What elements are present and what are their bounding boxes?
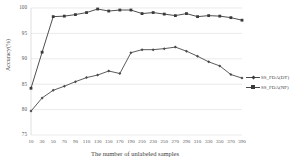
y-tick-label: 100 [11,5,27,10]
legend-label-ss-fda-nf: SS_FDA(NF) [261,85,289,90]
data-point-marker [152,48,155,51]
x-axis-title: The number of unlabeled samples [30,150,240,157]
data-point-marker [141,12,144,15]
data-point-marker [196,55,199,58]
x-tick-label: 390 [235,139,249,144]
data-point-marker [96,8,99,11]
y-tick-label: 95 [11,31,27,36]
data-point-marker [185,50,188,53]
data-point-marker [163,47,166,50]
accuracy-line-chart: Accuracy(%) 1009590858075 10305070901101… [0,0,302,164]
data-point-marker [107,69,110,72]
series-line-ss-fda-nf [31,9,242,88]
data-point-marker [229,16,232,19]
data-point-marker [141,48,144,51]
data-point-marker [185,12,188,15]
legend-item-ss-fda-dt[interactable]: SS_FDA(DT) [246,72,302,82]
chart-legend: SS_FDA(DT) SS_FDA(NF) [246,72,302,92]
y-tick-label: 75 [11,132,27,137]
data-point-marker [63,85,66,88]
y-tick-label: 90 [11,56,27,61]
data-point-marker [85,76,88,79]
data-point-marker [74,80,77,83]
data-point-marker [241,19,244,22]
data-point-marker [96,74,99,77]
legend-item-ss-fda-nf[interactable]: SS_FDA(NF) [246,82,302,92]
data-point-marker [207,60,210,63]
legend-label-ss-fda-dt: SS_FDA(DT) [261,75,289,80]
data-point-marker [130,9,133,12]
data-point-marker [74,13,77,16]
y-tick-label: 80 [11,107,27,112]
legend-marker-diamond-icon [246,73,260,81]
data-point-marker [174,46,177,49]
data-point-marker [163,13,166,16]
data-point-marker [196,15,199,18]
data-point-marker [107,10,110,13]
data-point-marker [52,15,55,18]
data-point-marker [207,14,210,17]
data-point-marker [152,11,155,14]
data-point-marker [174,14,177,17]
data-point-marker [241,77,244,80]
y-tick-label: 85 [11,82,27,87]
legend-marker-square-icon [246,83,260,91]
data-point-marker [218,15,221,18]
data-point-marker [118,9,121,12]
data-point-marker [85,11,88,14]
series-line-ss-fda-dt [31,47,242,111]
data-point-marker [63,15,66,18]
data-point-marker [30,87,33,90]
data-point-marker [41,51,44,54]
